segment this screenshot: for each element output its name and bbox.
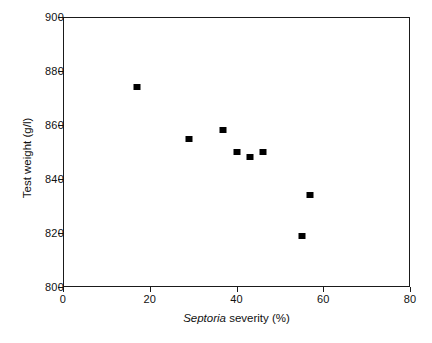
scatter-chart-figure: 800820840860880900 020406080 Test weight… [0, 0, 432, 343]
x-axis-title-plain: severity (%) [226, 312, 290, 324]
data-point [259, 149, 266, 155]
data-point [307, 192, 314, 198]
x-axis-tick-label: 0 [43, 294, 83, 305]
x-axis-tick [323, 287, 324, 292]
y-axis-tick-label: 880 [24, 66, 64, 77]
x-axis-title: Septoria severity (%) [63, 312, 410, 324]
data-point [220, 127, 227, 133]
data-point [298, 233, 305, 239]
data-point [246, 154, 253, 160]
y-axis-tick-label: 900 [24, 12, 64, 23]
x-axis-tick-label: 20 [130, 294, 170, 305]
data-point [233, 149, 240, 155]
data-point [133, 84, 140, 90]
y-axis-tick-label: 800 [24, 282, 64, 293]
x-axis-tick [410, 287, 411, 292]
x-axis-tick-label: 60 [303, 294, 343, 305]
x-axis-tick [237, 287, 238, 292]
y-axis-title: Test weight (g/l) [21, 83, 33, 233]
x-axis-tick [150, 287, 151, 292]
data-point [185, 136, 192, 142]
x-axis-tick-label: 80 [390, 294, 430, 305]
x-axis-tick-label: 40 [217, 294, 257, 305]
x-axis-title-italic: Septoria [183, 312, 226, 324]
